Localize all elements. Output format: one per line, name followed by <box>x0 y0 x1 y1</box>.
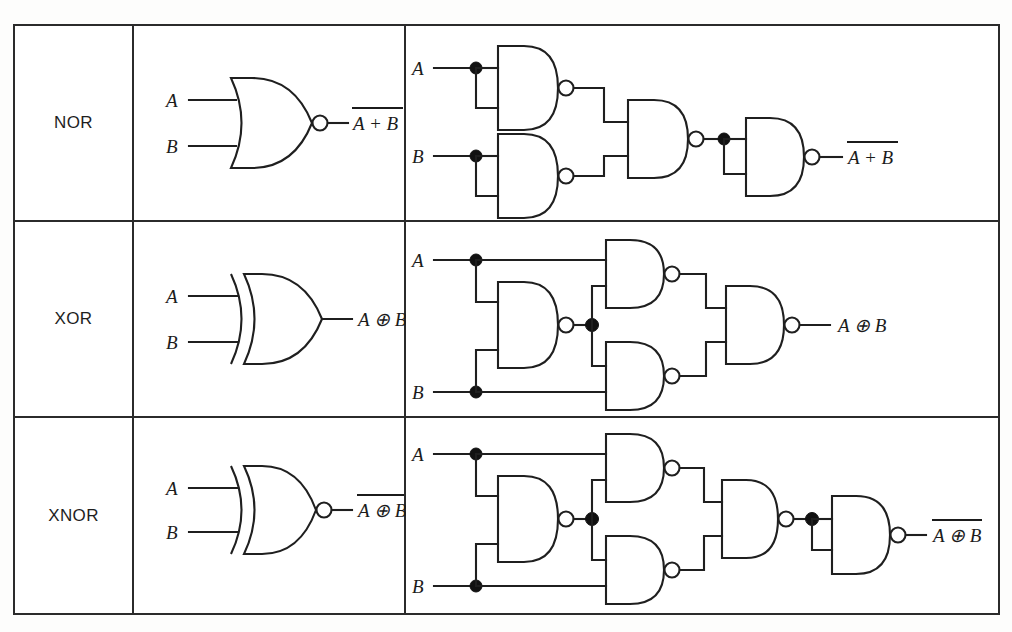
row-label-nor: NOR <box>15 26 134 220</box>
nand-gate-2-body <box>498 134 558 218</box>
wire-b-to-n1-bottom <box>476 350 498 392</box>
nand-gate-2-bubble <box>665 461 680 476</box>
xor-nand-equivalent-circuit: A B A ⊕ B <box>406 222 998 416</box>
xnor-extra-arc <box>231 466 242 554</box>
nand-gate-4-body <box>746 118 804 196</box>
wire-a-to-n1-top <box>476 454 498 496</box>
nand-gate-3-bubble <box>665 563 680 578</box>
nand-gate-1-body <box>498 282 558 368</box>
wire-n1-to-n3 <box>574 88 628 122</box>
nand-gate-1-body <box>498 476 558 562</box>
invert-bubble <box>313 116 328 131</box>
or-body <box>231 78 312 168</box>
table-row-xnor: XNOR A B A ⊕ B <box>15 418 998 613</box>
gate-equivalence-table: NOR A B A + B <box>13 24 1000 615</box>
equivalent-cell-nor: A B A + B <box>406 26 998 220</box>
nand-gate-3-body <box>606 536 664 604</box>
wire-n2-to-n4 <box>680 274 726 308</box>
wire-b-to-n1-bottom <box>476 544 498 586</box>
output-label-xor: A ⊕ B <box>356 309 406 330</box>
figure-page: NOR A B A + B <box>0 0 1012 632</box>
nand-gate-4-bubble <box>785 318 800 333</box>
wire-n2-to-n4 <box>680 468 722 502</box>
output-label-nor: A + B <box>351 113 399 134</box>
nor-gate-symbol: A B A + B <box>134 26 406 220</box>
wire-a-short-n1-bottom <box>476 68 498 108</box>
nand-gate-3-bubble <box>665 369 680 384</box>
or-body <box>244 466 316 554</box>
xor-gate-symbol: A B A ⊕ B <box>134 222 406 416</box>
input-label-a: A <box>164 286 178 307</box>
wire-n3-to-n4 <box>680 536 722 570</box>
nand-gate-3-body <box>606 342 664 410</box>
output-label-xnor-equivalent: A ⊕ B <box>931 525 982 546</box>
nand-gate-4-bubble <box>779 512 794 527</box>
output-label-nor-equivalent: A + B <box>846 147 894 168</box>
nand-gate-5-body <box>832 496 890 574</box>
input-label-b: B <box>412 382 424 403</box>
wire-a-to-n1-top <box>476 260 498 302</box>
input-label-b: B <box>166 136 178 157</box>
table-row-nor: NOR A B A + B <box>15 26 998 222</box>
xnor-gate-symbol: A B A ⊕ B <box>134 418 406 611</box>
nand-gate-2-body <box>606 434 664 502</box>
input-label-a: A <box>164 478 178 499</box>
nand-gate-2-bubble <box>665 267 680 282</box>
symbol-cell-xor: A B A ⊕ B <box>134 222 406 416</box>
nand-gate-4-body <box>722 480 778 558</box>
wire-n3-to-n4 <box>680 342 726 376</box>
input-label-a: A <box>164 90 178 111</box>
table-row-xor: XOR A B A ⊕ B <box>15 222 998 418</box>
row-label-xnor: XNOR <box>15 418 134 613</box>
input-label-a: A <box>410 250 424 271</box>
invert-bubble <box>317 503 332 518</box>
nand-gate-1-bubble <box>559 512 574 527</box>
output-label-xor-equivalent: A ⊕ B <box>836 315 887 336</box>
input-label-b: B <box>166 522 178 543</box>
nand-gate-2-bubble <box>559 169 574 184</box>
input-label-a: A <box>410 58 424 79</box>
nand-gate-1-bubble <box>559 81 574 96</box>
input-label-a: A <box>410 444 424 465</box>
nand-gate-1-body <box>498 46 558 130</box>
wire-n2-to-n3 <box>574 156 628 176</box>
nand-gate-4-body <box>726 286 784 364</box>
equivalent-cell-xor: A B A ⊕ B <box>406 222 998 416</box>
nand-gate-1-bubble <box>559 318 574 333</box>
nand-gate-3-body <box>628 100 688 178</box>
nor-nand-equivalent-circuit: A B A + B <box>406 26 998 220</box>
input-label-b: B <box>412 146 424 167</box>
nand-gate-3-bubble <box>689 132 704 147</box>
xor-extra-arc <box>231 274 242 364</box>
nand-gate-2-body <box>606 240 664 308</box>
row-label-xor: XOR <box>15 222 134 416</box>
output-label-xnor: A ⊕ B <box>356 500 406 521</box>
equivalent-cell-xnor: A B A ⊕ B <box>406 418 998 613</box>
wire-b-short-n2-bottom <box>476 156 498 196</box>
symbol-cell-nor: A B A + B <box>134 26 406 220</box>
xnor-nand-equivalent-circuit: A B A ⊕ B <box>406 418 998 611</box>
or-body <box>244 274 322 364</box>
input-label-b: B <box>166 332 178 353</box>
input-label-b: B <box>412 576 424 597</box>
symbol-cell-xnor: A B A ⊕ B <box>134 418 406 613</box>
nand-gate-4-bubble <box>805 150 820 165</box>
nand-gate-5-bubble <box>891 528 906 543</box>
